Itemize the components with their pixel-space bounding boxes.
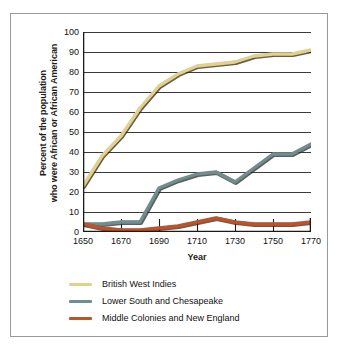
legend-swatch-icon <box>69 283 92 286</box>
y-tick-label: 90 <box>57 48 79 57</box>
y-tick-label: 30 <box>57 168 79 177</box>
legend-item-label: Middle Colonies and New England <box>102 313 240 323</box>
y-tick-label: 100 <box>57 28 79 37</box>
gridlines <box>83 33 311 213</box>
x-tick-label: 1670 <box>101 236 141 246</box>
chart-frame: Percent of the population who were Afric… <box>10 13 328 337</box>
legend-item[interactable]: Middle Colonies and New England <box>69 310 319 326</box>
x-tick-label: 1690 <box>139 236 179 246</box>
y-tick-label: 70 <box>57 88 79 97</box>
x-axis-tick-labels: 1650167016901710173017501770 <box>83 236 311 250</box>
x-tick-label: 1710 <box>177 236 217 246</box>
legend-item-label: Lower South and Chesapeake <box>102 296 223 306</box>
series-lines <box>83 50 311 231</box>
chart-legend: British West IndiesLower South and Chesa… <box>69 276 319 327</box>
y-tick-label: 20 <box>57 188 79 197</box>
x-tick-label: 1650 <box>63 236 103 246</box>
y-tick-label: 10 <box>57 208 79 217</box>
x-axis-title: Year <box>83 252 311 262</box>
y-tick-label: 80 <box>57 68 79 77</box>
y-tick-label: 50 <box>57 128 79 137</box>
x-tick-label: 1750 <box>253 236 293 246</box>
y-tick-label: 60 <box>57 108 79 117</box>
legend-swatch-icon <box>69 300 92 303</box>
series-line-shadow <box>84 51 311 187</box>
plot-area <box>83 32 311 232</box>
legend-item[interactable]: Lower South and Chesapeake <box>69 293 319 309</box>
x-tick-label: 1730 <box>215 236 255 246</box>
series-line-1 <box>83 50 311 186</box>
y-axis-tick-labels: 0102030405060708090100 <box>55 32 79 232</box>
legend-swatch-icon <box>69 317 92 320</box>
y-tick-label: 40 <box>57 148 79 157</box>
legend-item-label: British West Indies <box>102 279 176 289</box>
legend-item[interactable]: British West Indies <box>69 276 319 292</box>
chart-svg <box>83 32 311 232</box>
x-tick-label: 1770 <box>291 236 331 246</box>
y-axis-title-line-1: Percent of the population <box>38 70 49 176</box>
